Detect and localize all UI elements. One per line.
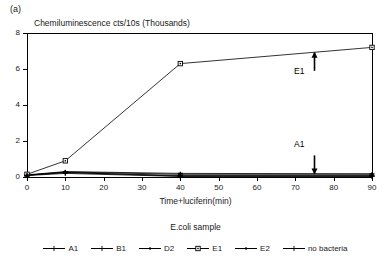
- data-point-center: [198, 248, 199, 249]
- legend-key: [187, 244, 209, 253]
- data-point-marker: [244, 247, 249, 250]
- figure-panel: (a) Chemiluminescence cts/10s (Thousands…: [0, 0, 391, 271]
- legend-label: E2: [260, 244, 270, 253]
- legend-key: [91, 244, 113, 253]
- legend-title: E.coli sample: [0, 222, 391, 232]
- legend-label: D2: [164, 244, 174, 253]
- legend-key: [283, 244, 305, 253]
- data-point-marker: [148, 247, 153, 250]
- legend-key: [139, 244, 161, 253]
- legend-marker-icon: [235, 244, 257, 253]
- legend-item-e1[interactable]: E1: [187, 244, 222, 253]
- data-point-center: [65, 160, 66, 161]
- legend-marker-icon: [283, 244, 305, 253]
- data-point-center: [371, 47, 372, 48]
- legend-item-e2[interactable]: E2: [235, 244, 270, 253]
- legend-marker-icon: [43, 244, 65, 253]
- data-point-center: [180, 63, 181, 64]
- legend-label: A1: [68, 244, 78, 253]
- data-point-marker: [100, 246, 105, 251]
- x-axis-title: Time+luciferin(min): [0, 196, 391, 206]
- series-e1: [25, 45, 374, 176]
- legend-label: B1: [116, 244, 126, 253]
- annotation-a1-label: A1: [294, 139, 304, 149]
- series-line: [27, 47, 372, 174]
- legend-marker-icon: [187, 244, 209, 253]
- legend-marker-icon: [139, 244, 161, 253]
- legend-marker-icon: [91, 244, 113, 253]
- legend-key: [43, 244, 65, 253]
- annotation-e1-label: E1: [294, 66, 304, 76]
- legend-item-b1[interactable]: B1: [91, 244, 126, 253]
- legend-key: [235, 244, 257, 253]
- legend-label: E1: [212, 244, 222, 253]
- legend: A1B1D2E1E2no bacteria: [0, 244, 391, 253]
- annotation-arrow-a1: [312, 155, 318, 174]
- data-point-marker: [52, 246, 57, 251]
- legend-label: no bacteria: [308, 244, 348, 253]
- legend-item-d2[interactable]: D2: [139, 244, 174, 253]
- annotation-arrow-e1: [312, 52, 318, 71]
- legend-item-a1[interactable]: A1: [43, 244, 78, 253]
- legend-item-no-bacteria[interactable]: no bacteria: [283, 244, 348, 253]
- data-point-marker: [291, 246, 296, 251]
